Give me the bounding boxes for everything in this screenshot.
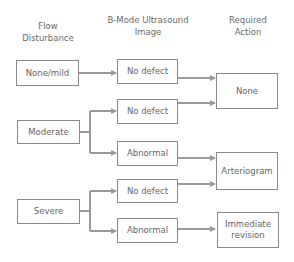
node-none-mild: None/mild [16,60,79,86]
action-line: revision [231,230,264,241]
node-no-defect-3: No defect [117,179,178,203]
node-abnormal-1: Abnormal [117,141,178,166]
node-severe: Severe [17,199,80,224]
node-no-defect-2: No defect [117,99,178,124]
node-abnormal-2: Abnormal [117,218,178,243]
node-no-defect-1: No defect [117,59,178,84]
action-line: Immediate [225,219,271,230]
node-action-arteriogram: Arteriogram [216,152,278,190]
node-moderate: Moderate [17,120,80,144]
node-action-none: None [216,73,278,109]
node-action-immediate-revision: Immediate revision [217,212,279,248]
